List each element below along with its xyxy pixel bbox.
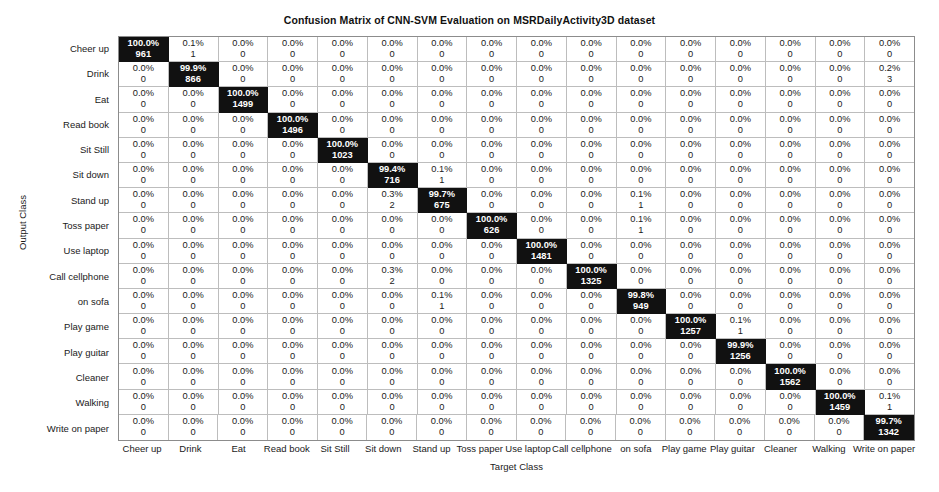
matrix-cell: 0.0%0 xyxy=(567,87,617,112)
cell-percent: 0.0% xyxy=(829,114,850,125)
matrix-cell: 0.0%0 xyxy=(268,264,318,289)
cell-count: 0 xyxy=(390,377,395,388)
cell-percent: 0.0% xyxy=(780,391,801,402)
matrix-cell: 0.0%0 xyxy=(716,138,766,163)
cell-count: 0 xyxy=(589,326,594,337)
cell-count: 0 xyxy=(738,49,743,60)
cell-count: 0 xyxy=(340,427,345,438)
cell-percent: 0.1% xyxy=(730,315,751,326)
matrix-cell: 0.0%0 xyxy=(865,264,914,289)
cell-count: 0 xyxy=(589,301,594,312)
matrix-cell: 0.0%0 xyxy=(617,163,667,188)
cell-percent: 0.0% xyxy=(183,214,204,225)
cell-percent: 0.0% xyxy=(879,366,900,377)
cell-count: 961 xyxy=(136,49,152,60)
matrix-cell: 0.0%0 xyxy=(816,188,866,213)
cell-percent: 0.0% xyxy=(282,63,303,74)
cell-percent: 0.0% xyxy=(282,290,303,301)
matrix-cell: 0.0%0 xyxy=(318,314,368,339)
matrix-cell: 0.0%0 xyxy=(169,113,219,138)
cell-percent: 0.0% xyxy=(730,240,751,251)
cell-percent: 0.0% xyxy=(531,88,552,99)
cell-percent: 0.0% xyxy=(581,315,602,326)
cell-percent: 0.0% xyxy=(680,139,701,150)
cell-count: 0 xyxy=(489,402,494,413)
cell-count: 0 xyxy=(390,351,395,362)
cell-percent: 0.0% xyxy=(879,88,900,99)
matrix-cell: 0.0%0 xyxy=(865,163,914,188)
cell-count: 0 xyxy=(837,125,842,136)
cell-percent: 0.0% xyxy=(630,416,651,427)
matrix-cell: 0.0%0 xyxy=(666,62,716,87)
matrix-cell: 0.0%0 xyxy=(567,163,617,188)
cell-percent: 0.1% xyxy=(630,214,651,225)
cell-count: 0 xyxy=(539,402,544,413)
cell-count: 0 xyxy=(638,175,643,186)
matrix-cell: 0.0%0 xyxy=(268,239,318,264)
cell-percent: 0.0% xyxy=(730,290,751,301)
cell-count: 0 xyxy=(489,125,494,136)
cell-percent: 0.0% xyxy=(531,265,552,276)
cell-count: 0 xyxy=(191,402,196,413)
cell-count: 0 xyxy=(240,402,245,413)
cell-count: 0 xyxy=(688,276,693,287)
matrix-cell: 0.0%0 xyxy=(816,213,866,238)
matrix-cell: 0.0%0 xyxy=(567,339,617,364)
cell-count: 626 xyxy=(484,225,500,236)
matrix-cell: 0.0%0 xyxy=(169,415,219,440)
cell-count: 0 xyxy=(788,125,793,136)
cell-percent: 0.0% xyxy=(729,416,750,427)
matrix-cell: 0.0%0 xyxy=(567,62,617,87)
cell-count: 0 xyxy=(141,175,146,186)
cell-count: 0 xyxy=(390,301,395,312)
cell-percent: 0.0% xyxy=(282,88,303,99)
cell-count: 0 xyxy=(638,251,643,262)
cell-percent: 0.0% xyxy=(183,315,204,326)
matrix-cell-diagonal: 100.0%1481 xyxy=(517,239,567,264)
cell-count: 0 xyxy=(439,402,444,413)
cell-percent: 0.0% xyxy=(133,139,154,150)
cell-count: 1562 xyxy=(780,377,801,388)
cell-count: 0 xyxy=(738,225,743,236)
cell-percent: 0.0% xyxy=(481,265,502,276)
matrix-cell: 0.0%0 xyxy=(617,87,667,112)
cell-percent: 99.9% xyxy=(727,340,753,351)
cell-count: 0 xyxy=(887,99,892,110)
cell-count: 0 xyxy=(738,301,743,312)
cell-percent: 0.0% xyxy=(382,139,403,150)
cell-percent: 0.0% xyxy=(730,265,751,276)
cell-count: 0 xyxy=(489,276,494,287)
cell-percent: 0.0% xyxy=(679,416,700,427)
cell-percent: 0.0% xyxy=(183,265,204,276)
matrix-cell: 0.0%0 xyxy=(666,364,716,389)
matrix-cell: 0.0%0 xyxy=(318,415,368,440)
matrix-cell: 0.0%0 xyxy=(816,314,866,339)
confusion-matrix-grid: 100.0%9610.1%10.0%00.0%00.0%00.0%00.0%00… xyxy=(118,36,915,441)
cell-percent: 0.0% xyxy=(581,214,602,225)
cell-percent: 0.0% xyxy=(133,265,154,276)
cell-count: 0 xyxy=(539,150,544,161)
cell-percent: 0.0% xyxy=(182,416,203,427)
matrix-cell: 0.0%0 xyxy=(716,364,766,389)
cell-count: 0 xyxy=(887,49,892,60)
matrix-cell: 0.0%0 xyxy=(467,188,517,213)
matrix-row: 0.0%00.0%00.0%0100.0%14960.0%00.0%00.0%0… xyxy=(119,113,914,138)
matrix-cell: 0.0%0 xyxy=(816,37,866,62)
cell-percent: 0.0% xyxy=(133,416,154,427)
matrix-cell: 0.0%0 xyxy=(517,62,567,87)
cell-count: 0 xyxy=(141,276,146,287)
cell-count: 1 xyxy=(191,49,196,60)
cell-count: 0 xyxy=(439,125,444,136)
cell-count: 0 xyxy=(688,377,693,388)
cell-count: 0 xyxy=(340,402,345,413)
x-axis-label: Target Class xyxy=(118,461,915,472)
matrix-cell: 0.0%0 xyxy=(517,314,567,339)
cell-count: 0 xyxy=(340,225,345,236)
matrix-cell: 0.0%0 xyxy=(268,390,318,415)
cell-percent: 0.0% xyxy=(730,139,751,150)
cell-percent: 0.0% xyxy=(332,189,353,200)
matrix-cell: 0.0%0 xyxy=(219,213,269,238)
matrix-cell: 0.3%2 xyxy=(368,264,418,289)
matrix-row: 0.0%00.0%00.0%00.0%00.0%00.3%299.7%6750.… xyxy=(119,188,914,213)
cell-percent: 0.0% xyxy=(829,189,850,200)
